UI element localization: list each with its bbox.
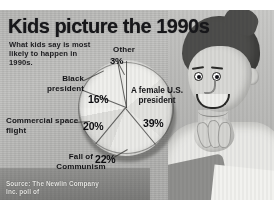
value-female-president: 39% xyxy=(143,117,163,129)
slice-divider-1 xyxy=(126,61,127,108)
value-black-president: 16% xyxy=(88,93,108,105)
label-commercial-space-flight: Commercial space flight xyxy=(6,116,80,135)
label-black-president: Black president xyxy=(28,74,84,93)
label-female-president: A female U.S. president xyxy=(129,86,185,105)
chin-shape xyxy=(198,106,228,117)
collar-shape xyxy=(210,164,274,200)
page-title: Kids picture the 1990s xyxy=(8,16,209,36)
pupil-left xyxy=(197,75,201,79)
label-other: Other xyxy=(104,45,144,55)
pupil-right xyxy=(215,75,219,79)
value-fall-of-communism: 22% xyxy=(95,153,115,165)
subtitle: What kids say is most likely to happen i… xyxy=(9,40,95,68)
newspaper-infographic: Kids picture the 1990s What kids say is … xyxy=(0,0,274,200)
source-attribution: Source: The Newlin Company Inc. poll of xyxy=(6,180,106,195)
value-commercial-space-flight: 20% xyxy=(83,120,103,132)
value-other: 3% xyxy=(110,55,123,66)
